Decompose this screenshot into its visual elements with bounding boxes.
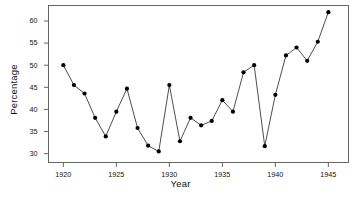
- data-point-marker: 1920: 50: [61, 63, 65, 67]
- x-tick-label: 1920: [48, 170, 78, 179]
- data-point-marker: 1942: 54: [294, 45, 298, 49]
- data-point-marker: 1941: 52.2: [284, 53, 288, 57]
- data-point-marker: 1926: 44.7: [125, 87, 129, 91]
- data-point-marker: 1922: 43.6: [82, 91, 86, 95]
- y-tick-label: 50: [16, 61, 38, 70]
- chart-figure: 1920: 501921: 45.51922: 43.61923: 38.119…: [0, 0, 361, 197]
- data-point-marker: 1932: 38.1: [188, 116, 192, 120]
- data-point-marker: 1924: 33.9: [104, 134, 108, 138]
- data-point-marker: 1930: 45.5: [167, 83, 171, 87]
- x-tick-label: 1935: [207, 170, 237, 179]
- plot-frame: [49, 6, 349, 163]
- data-point-marker: 1938: 50: [252, 63, 256, 67]
- data-point-marker: 1945: 62: [326, 10, 330, 14]
- data-point-marker: 1933: 36.4: [199, 123, 203, 127]
- data-point-marker: 1927: 35.8: [135, 126, 139, 130]
- data-point-marker: 1925: 39.5: [114, 110, 118, 114]
- data-point-marker: 1931: 32.8: [178, 139, 182, 143]
- y-tick-label: 55: [16, 38, 38, 47]
- line-chart-plot: 1920: 501921: 45.51922: 43.61923: 38.119…: [0, 0, 361, 197]
- data-point-marker: 1939: 31.7: [263, 144, 267, 148]
- data-point-marker: 1944: 55.3: [316, 40, 320, 44]
- y-tick-label: 40: [16, 105, 38, 114]
- y-tick-label: 35: [16, 127, 38, 136]
- x-tick-label: 1925: [101, 170, 131, 179]
- x-tick-label: 1930: [154, 170, 184, 179]
- data-point-marker: 1936: 39.5: [231, 110, 235, 114]
- y-tick-label: 45: [16, 83, 38, 92]
- data-point-marker: 1935: 42.1: [220, 98, 224, 102]
- x-tick-label: 1945: [313, 170, 343, 179]
- data-point-marker: 1937: 48.4: [241, 70, 245, 74]
- data-point-marker: 1928: 31.8: [146, 144, 150, 148]
- x-tick-label: 1940: [260, 170, 290, 179]
- plot-frame-rect: [49, 6, 349, 163]
- data-point-marker: 1934: 37.4: [210, 119, 214, 123]
- data-point-marker: 1921: 45.5: [72, 83, 76, 87]
- data-point-marker: 1940: 43.3: [273, 93, 277, 97]
- data-point-marker: 1929: 30.5: [157, 149, 161, 153]
- y-tick-label: 60: [16, 16, 38, 25]
- x-axis-title: Year: [0, 178, 361, 189]
- data-point-marker: 1923: 38.1: [93, 116, 97, 120]
- y-tick-label: 30: [16, 149, 38, 158]
- data-point-marker: 1943: 51: [305, 59, 309, 63]
